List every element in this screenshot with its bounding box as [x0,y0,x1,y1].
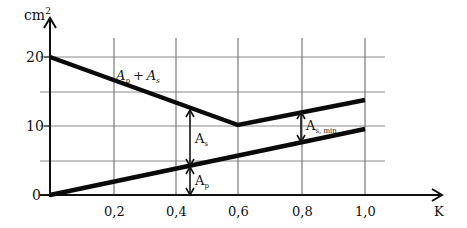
area-chart: cm2 20 10 0 0,2 0,4 0,6 0,8 1,0 K Ap+As … [0,0,467,228]
x-tick-1-0: 1,0 [355,204,376,219]
y-tick-10: 10 [26,118,44,134]
ap-dimension-arrow [186,167,194,195]
y-tick-0: 0 [32,187,41,203]
x-tick-0-6: 0,6 [228,204,249,219]
x-axis-unit-label: K [434,204,444,219]
as-dimension-arrow [186,110,194,166]
label-as: As [194,131,208,148]
label-ap-plus-as: Ap+As [115,68,160,85]
x-tick-0-4: 0,4 [166,204,187,219]
label-ap: Ap [194,173,209,190]
x-tick-0-2: 0,2 [104,204,125,219]
y-tick-20: 20 [26,49,44,65]
x-tick-0-8: 0,8 [292,204,313,219]
asmin-dimension-arrow [297,112,305,142]
series-ap-plus-as-line [50,57,365,125]
y-axis-unit-label: cm2 [24,6,51,23]
label-as-min: As, min [305,118,337,135]
